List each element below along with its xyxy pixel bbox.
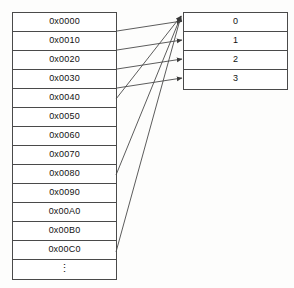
memory-row: 0x0010 bbox=[13, 32, 116, 51]
memory-row: 0x0020 bbox=[13, 51, 116, 70]
memory-row: 0x00A0 bbox=[13, 203, 116, 222]
memory-row: 0x0060 bbox=[13, 127, 116, 146]
memory-row: 0x00B0 bbox=[13, 222, 116, 241]
memory-row: 0x0000 bbox=[13, 13, 116, 32]
memory-row: 0x0040 bbox=[13, 89, 116, 108]
arrow-0x00C0-to-index-0 bbox=[116, 16, 181, 252]
memory-address-table: 0x0000 0x0010 0x0020 0x0030 0x0040 0x005… bbox=[12, 12, 117, 280]
index-row: 3 bbox=[184, 70, 287, 89]
memory-row: 0x0070 bbox=[13, 146, 116, 165]
arrow-0x0000-to-index-0 bbox=[117, 21, 182, 31]
arrow-0x0010-to-index-1 bbox=[117, 40, 182, 50]
index-table: 0 1 2 3 bbox=[183, 12, 288, 90]
index-row: 1 bbox=[184, 32, 287, 51]
memory-row: 0x0050 bbox=[13, 108, 116, 127]
memory-row: 0x0080 bbox=[13, 165, 116, 184]
memory-mapping-diagram: 0x0000 0x0010 0x0020 0x0030 0x0040 0x005… bbox=[0, 0, 294, 288]
index-row: 2 bbox=[184, 51, 287, 70]
memory-row: 0x0090 bbox=[13, 184, 116, 203]
arrow-0x0020-to-index-2 bbox=[117, 59, 182, 69]
memory-row: 0x00C0 bbox=[13, 241, 116, 260]
memory-row: 0x0030 bbox=[13, 70, 116, 89]
arrow-0x0040-to-index-0 bbox=[116, 16, 181, 99]
index-row: 0 bbox=[184, 13, 287, 32]
arrow-0x0030-to-index-3 bbox=[117, 78, 182, 88]
arrow-0x0080-to-index-0 bbox=[116, 16, 181, 175]
memory-row-ellipsis: ⋮ bbox=[13, 260, 116, 279]
vertical-ellipsis-icon: ⋮ bbox=[13, 260, 116, 277]
